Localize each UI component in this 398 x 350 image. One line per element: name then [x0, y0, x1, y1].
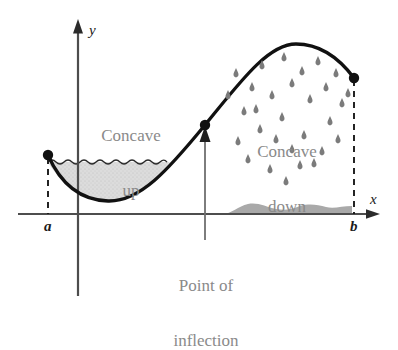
inflection-line1: Point of [150, 277, 262, 295]
inflection-label: Point of inflection [150, 240, 262, 350]
right-endpoint-dot [349, 73, 359, 83]
concave-up-line1: Concave [83, 127, 179, 145]
left-endpoint-dot [43, 150, 53, 160]
y-axis-arrowhead [73, 19, 83, 34]
concave-up-label: Concave up [83, 90, 179, 237]
inflection-point-dot [200, 120, 210, 130]
concave-down-label: Concave down [239, 106, 335, 253]
x-axis-label: x [370, 191, 377, 208]
left-bound-label: a [44, 218, 52, 235]
concave-down-line2: down [239, 198, 335, 216]
concave-up-line2: up [83, 182, 179, 200]
y-axis-label: y [89, 22, 96, 39]
inflection-callout-arrow [200, 126, 211, 240]
inflection-line2: inflection [150, 332, 262, 350]
concave-down-line1: Concave [239, 143, 335, 161]
right-bound-label: b [350, 218, 358, 235]
x-axis-arrowhead [366, 209, 380, 219]
